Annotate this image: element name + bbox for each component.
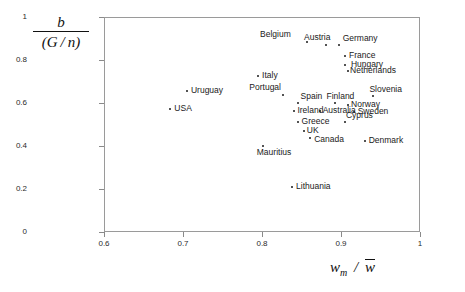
x-tick-mark xyxy=(420,232,421,237)
x-axis-title-divider: / xyxy=(351,259,361,275)
x-tick-mark xyxy=(104,232,105,237)
x-axis-title: wm / w xyxy=(330,258,375,278)
y-tick-label: 0.4 xyxy=(0,142,27,150)
y-tick-label-wrap: 1 xyxy=(0,13,99,21)
y-tick-label-wrap: 0.2 xyxy=(0,185,99,193)
data-point-label: Spain xyxy=(301,92,323,101)
data-point-label: Slovenia xyxy=(369,85,402,94)
data-point-label: Belgium xyxy=(260,30,291,39)
x-tick-label: 0.9 xyxy=(321,239,361,248)
x-tick-mark xyxy=(262,232,263,237)
data-point-label: Cyprus xyxy=(346,111,373,120)
y-axis-title-denominator: (G / n) xyxy=(24,34,98,51)
data-point-marker xyxy=(344,55,346,57)
y-tick-mark xyxy=(99,189,104,190)
y-tick-mark xyxy=(99,146,104,147)
data-point-label: Austria xyxy=(304,33,330,42)
x-tick-label: 1 xyxy=(400,239,440,248)
data-point-label: Mauritius xyxy=(257,148,291,157)
y-tick-label-wrap: 0.4 xyxy=(0,142,99,150)
y-tick-label-wrap: 0.8 xyxy=(0,56,99,64)
y-tick-mark xyxy=(99,17,104,18)
data-point-label: Portugal xyxy=(249,83,281,92)
x-axis-title-numerator: wm xyxy=(330,259,347,275)
y-tick-label-wrap: 0.6 xyxy=(0,99,99,107)
y-tick-label: 0 xyxy=(0,228,27,236)
data-point-marker xyxy=(344,121,346,123)
x-axis-title-denominator: w xyxy=(365,258,375,276)
data-point-marker xyxy=(297,121,299,123)
data-point-label: USA xyxy=(174,104,191,113)
y-tick-mark xyxy=(99,60,104,61)
x-tick-label: 0.8 xyxy=(242,239,282,248)
data-point-marker xyxy=(303,130,305,132)
y-tick-label: 1 xyxy=(0,13,27,21)
data-point-label: Netherlands xyxy=(350,66,396,75)
y-tick-label-wrap: 0 xyxy=(0,228,99,236)
x-tick-label: 0.6 xyxy=(84,239,124,248)
data-point-label: Canada xyxy=(314,135,344,144)
data-point-marker xyxy=(319,110,321,112)
data-point-label: Denmark xyxy=(369,136,403,145)
y-tick-label: 0.2 xyxy=(0,185,27,193)
data-point-marker xyxy=(186,90,188,92)
y-tick-label: 0.6 xyxy=(0,99,27,107)
fraction-bar xyxy=(33,31,89,32)
data-point-label: Lithuania xyxy=(296,182,331,191)
data-point-marker xyxy=(325,44,327,46)
x-tick-mark xyxy=(341,232,342,237)
data-point-label: Uruguay xyxy=(191,86,223,95)
y-tick-mark xyxy=(99,103,104,104)
x-tick-mark xyxy=(183,232,184,237)
data-point-label: Italy xyxy=(262,71,278,80)
data-point-marker xyxy=(344,64,346,66)
data-point-marker xyxy=(364,140,366,142)
x-tick-label: 0.7 xyxy=(163,239,203,248)
data-point-label: Germany xyxy=(343,34,378,43)
y-tick-label: 0.8 xyxy=(0,56,27,64)
scatter-chart-figure: b (G / n) wm / w 00.20.40.60.81 0.60.70.… xyxy=(0,0,465,292)
data-point-marker xyxy=(257,75,259,77)
data-point-marker xyxy=(338,44,340,46)
data-point-marker xyxy=(297,102,299,104)
